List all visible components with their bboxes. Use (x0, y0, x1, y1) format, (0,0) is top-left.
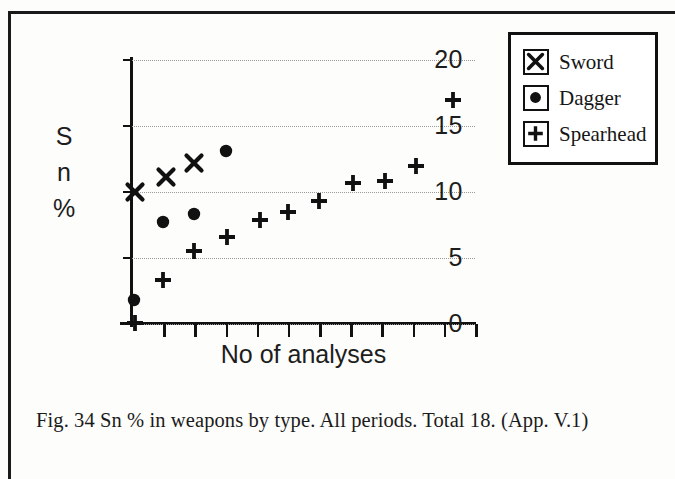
y-axis-tick-label: 20 (434, 47, 463, 72)
legend-label: Spearhead (559, 122, 646, 147)
x-axis-tick (381, 324, 384, 337)
legend-label: Dagger (559, 86, 621, 111)
x-axis-title: No of analyses (132, 340, 475, 369)
legend-label: Sword (559, 50, 614, 75)
gridline-horizontal (132, 60, 475, 61)
x-axis-tick (226, 324, 229, 337)
x-axis-tick (194, 324, 197, 337)
legend-item-dagger[interactable]: Dagger (523, 80, 645, 116)
y-axis-title-line: S (44, 118, 84, 154)
y-axis-tick (123, 257, 132, 259)
legend-item-spearhead[interactable]: Spearhead (523, 116, 645, 152)
y-axis-title-line: n (44, 154, 84, 190)
y-axis-title: S n % (44, 118, 84, 226)
figure-caption: Fig. 34 Sn % in weapons by type. All per… (36, 409, 588, 432)
figure-scatter-chart: S n % 05101520 No of analyses Sword (0, 0, 675, 479)
gridline-horizontal (132, 324, 475, 325)
y-axis-tick-label: 5 (449, 245, 463, 270)
x-axis-tick (350, 324, 353, 337)
legend-item-sword[interactable]: Sword (523, 44, 645, 80)
y-axis-tick (123, 59, 132, 61)
gridline-horizontal (132, 192, 475, 193)
x-axis-tick (475, 324, 478, 337)
x-axis-tick (413, 324, 416, 337)
y-axis-tick-label: 0 (449, 311, 463, 336)
chart-legend: Sword Dagger Spearhead (508, 32, 658, 165)
y-axis-tick-label: 15 (434, 113, 463, 138)
y-axis-title-line: % (44, 190, 84, 226)
x-axis-tick (319, 324, 322, 337)
x-marker-icon (523, 49, 549, 75)
plus-marker-icon (523, 121, 549, 147)
x-axis-tick (444, 324, 447, 337)
x-axis-tick (163, 324, 166, 337)
x-axis-tick (288, 324, 291, 337)
gridline-horizontal (132, 126, 475, 127)
circle-marker-icon (523, 85, 549, 111)
y-axis-tick-label: 10 (434, 179, 463, 204)
x-axis-tick (257, 324, 260, 337)
y-axis-tick (123, 125, 132, 127)
plot-area: 05101520 (132, 60, 475, 324)
scanned-page: S n % 05101520 No of analyses Sword (0, 0, 675, 479)
